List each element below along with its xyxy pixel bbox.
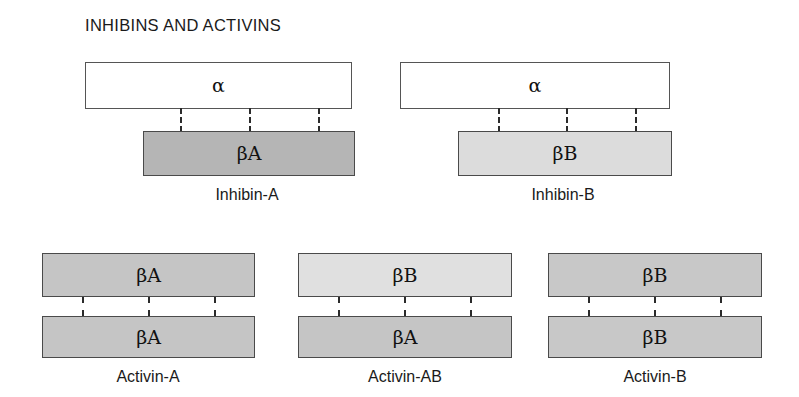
subunit-label: α	[529, 76, 542, 95]
inhibin-b-bond-3	[635, 108, 637, 132]
subunit-label: βA	[136, 266, 161, 285]
inhibin-a-bond-3	[318, 108, 320, 132]
subunit-label: βA	[136, 328, 161, 347]
inhibin-b-caption: Inhibin-B	[531, 186, 594, 204]
subunit-label: βA	[237, 144, 262, 163]
activin-b-bottom-subunit: βB	[548, 316, 762, 358]
inhibin-b-bond-1	[498, 108, 500, 132]
subunit-label: βB	[643, 266, 668, 285]
activin-b-bond-3	[720, 297, 722, 316]
subunit-label: βA	[393, 328, 418, 347]
activin-b-bond-2	[654, 297, 656, 316]
activin-b-caption: Activin-B	[623, 368, 686, 386]
inhibin-b-bond-2	[566, 108, 568, 132]
figure-title: INHIBINS AND ACTIVINS	[85, 16, 281, 35]
inhibin-a-alpha-subunit: α	[85, 62, 352, 109]
activin-a-bond-1	[82, 297, 84, 316]
activin-a-bond-2	[148, 297, 150, 316]
activin-ab-caption: Activin-AB	[368, 368, 442, 386]
subunit-label: βB	[643, 328, 668, 347]
inhibin-b-beta-subunit: βB	[458, 131, 672, 176]
activin-ab-bond-3	[470, 297, 472, 316]
subunit-label: α	[212, 76, 225, 95]
activin-ab-bond-1	[338, 297, 340, 316]
activin-a-bottom-subunit: βA	[42, 316, 255, 358]
activin-b-bond-1	[588, 297, 590, 316]
activin-ab-top-subunit: βB	[298, 253, 512, 297]
inhibin-a-bond-1	[180, 108, 182, 132]
figure-canvas: INHIBINS AND ACTIVINS α βA Inhibin-A α β…	[0, 0, 799, 397]
activin-ab-bond-2	[404, 297, 406, 316]
inhibin-b-alpha-subunit: α	[400, 62, 670, 109]
activin-ab-bottom-subunit: βA	[298, 316, 512, 358]
activin-a-bond-3	[214, 297, 216, 316]
inhibin-a-bond-2	[249, 108, 251, 132]
activin-b-top-subunit: βB	[548, 253, 762, 297]
inhibin-a-caption: Inhibin-A	[215, 186, 278, 204]
activin-a-top-subunit: βA	[42, 253, 255, 297]
inhibin-a-beta-subunit: βA	[143, 131, 355, 176]
subunit-label: βB	[393, 266, 418, 285]
subunit-label: βB	[553, 144, 578, 163]
activin-a-caption: Activin-A	[116, 368, 179, 386]
